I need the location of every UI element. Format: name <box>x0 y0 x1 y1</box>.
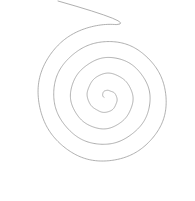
drawing-canvas <box>0 0 195 201</box>
spiral-figure <box>0 0 195 201</box>
canvas-background <box>0 0 195 201</box>
